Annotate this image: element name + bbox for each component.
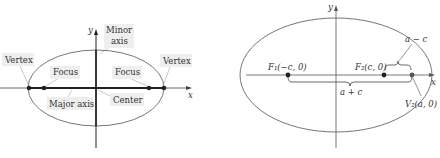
minor-axis-label-line1: Minor <box>106 25 133 35</box>
focus-left-label: Focus <box>53 67 78 77</box>
left-ellipse-diagram: Vertex Focus Focus Vertex Minor axis Maj… <box>0 24 193 148</box>
f2-point <box>382 73 387 78</box>
right-y-axis-label: y <box>327 2 333 12</box>
ellipse-diagrams: Vertex Focus Focus Vertex Minor axis Maj… <box>0 0 440 158</box>
center-label: Center <box>113 95 143 105</box>
f2-label: F₂(c, 0) <box>354 62 387 72</box>
a-plus-c-brace <box>288 77 412 86</box>
a-minus-c-label: a − c <box>405 34 428 44</box>
vertex-left-label: Vertex <box>4 55 33 65</box>
v2-leader <box>413 78 421 96</box>
minor-axis-label-line2: axis <box>111 36 128 46</box>
f1-label: F₁(−c, 0) <box>267 62 307 72</box>
right-ellipse-diagram: F₁(−c, 0) F₂(c, 0) V₂(a, 0) a − c a + c … <box>240 2 437 148</box>
a-minus-c-brace <box>385 61 411 70</box>
focus-right-point <box>147 86 152 91</box>
v2-point <box>410 73 415 78</box>
f1-point <box>286 73 291 78</box>
vertex-right-label: Vertex <box>162 56 191 66</box>
v2-label: V₂(a, 0) <box>405 99 437 109</box>
focus-left-point <box>42 86 47 91</box>
a-plus-c-label: a + c <box>340 87 363 97</box>
major-axis-label: Major axis <box>49 99 94 109</box>
focus-right-label: Focus <box>115 67 140 77</box>
right-x-axis-label: x <box>431 77 436 87</box>
vertex-left-point <box>27 86 32 91</box>
a-minus-c-leader <box>399 44 412 61</box>
left-y-arrow-icon <box>94 29 98 35</box>
left-y-axis-label: y <box>87 25 93 35</box>
vertex-right-point <box>162 86 167 91</box>
right-y-arrow-icon <box>334 5 338 11</box>
left-x-axis-label: x <box>188 90 193 100</box>
